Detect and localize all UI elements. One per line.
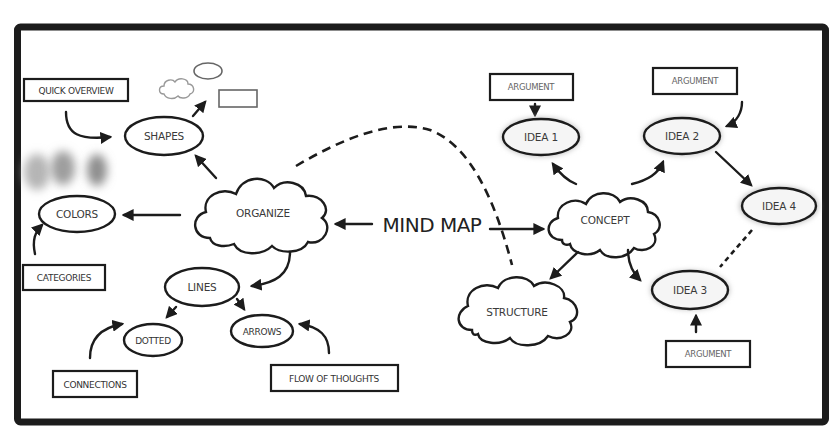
svg-text:IDEA 2: IDEA 2 [665,130,699,142]
node-idea-1: IDEA 1 [501,117,581,157]
node-arrows: ARROWS [231,315,293,347]
svg-text:LINES: LINES [187,281,217,293]
flow-of-thoughts-box: FLOW OF THOUGHTS [271,365,398,391]
svg-text:ARGUMENT: ARGUMENT [508,82,555,92]
svg-text:QUICK OVERVIEW: QUICK OVERVIEW [38,86,114,96]
node-lines: LINES [165,268,239,306]
connections-box: CONNECTIONS [53,371,137,397]
svg-text:ARGUMENT: ARGUMENT [685,349,732,359]
node-structure: STRUCTURE [459,277,577,345]
node-idea-3: IDEA 3 [650,270,730,310]
node-shapes: SHAPES [125,117,203,155]
svg-text:CONCEPT: CONCEPT [581,214,631,226]
svg-text:ARROWS: ARROWS [243,327,282,337]
svg-text:DOTTED: DOTTED [135,336,171,346]
quick-overview-box: QUICK OVERVIEW [24,79,128,101]
categories-box: CATEGORIES [23,265,105,290]
node-idea-4: IDEA 4 [739,186,819,226]
argument-box-2: ARGUMENT [653,68,737,94]
svg-text:STRUCTURE: STRUCTURE [486,306,548,318]
rectangle-outline-icon [219,90,257,107]
node-colors: COLORS [39,196,115,232]
node-dotted: DOTTED [124,324,182,356]
svg-text:SHAPES: SHAPES [144,130,185,142]
svg-text:ARGUMENT: ARGUMENT [672,76,719,86]
color-blob-icon [24,151,107,190]
node-idea-2: IDEA 2 [642,116,722,156]
svg-text:IDEA 4: IDEA 4 [762,200,796,212]
svg-text:CONNECTIONS: CONNECTIONS [63,380,127,390]
argument-box-3: ARGUMENT [666,341,750,367]
svg-text:FLOW OF THOUGHTS: FLOW OF THOUGHTS [289,374,380,384]
svg-text:COLORS: COLORS [56,208,99,220]
diagram-title: MIND MAP [383,213,482,237]
svg-text:IDEA 3: IDEA 3 [673,284,707,296]
svg-text:ORGANIZE: ORGANIZE [236,207,290,219]
ellipse-outline-icon [194,63,222,79]
argument-box-1: ARGUMENT [490,74,573,100]
mind-map-diagram: QUICK OVERVIEW SHAPES ORGANIZE COLORS CA… [0,0,839,440]
svg-text:CATEGORIES: CATEGORIES [37,273,92,283]
svg-text:IDEA 1: IDEA 1 [524,131,558,143]
